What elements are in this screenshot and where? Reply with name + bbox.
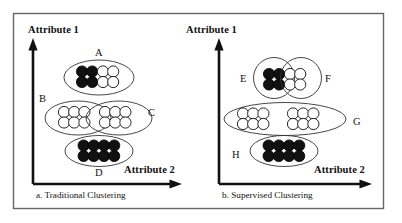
right-y-axis-arrowhead <box>214 38 223 51</box>
cluster-H-dark-dots <box>263 140 305 162</box>
cluster-E-label: E <box>240 73 246 84</box>
left-x-axis-label: Attribute 2 <box>124 164 175 175</box>
right-panel-caption: b. Supervised Clustering <box>222 190 313 200</box>
figure-container: Attribute 1 Attribute 2 A B C D a. Tradi… <box>0 0 402 223</box>
cluster-C-light-dots <box>99 106 131 128</box>
left-x-axis-arrowhead <box>170 179 183 188</box>
cluster-G-light-dots-right <box>287 108 319 130</box>
right-y-axis-label: Attribute 1 <box>186 24 237 35</box>
cluster-B-light-dots <box>58 106 90 128</box>
left-panel-caption: a. Traditional Clustering <box>36 190 126 200</box>
cluster-F-label: F <box>325 73 331 84</box>
cluster-G-light-dots-left <box>237 108 269 130</box>
cluster-A-light-dots <box>97 66 118 88</box>
cluster-C-label: C <box>148 107 155 118</box>
left-y-axis <box>28 38 37 184</box>
cluster-H-label: H <box>232 149 240 160</box>
cluster-D-dark-dots <box>78 140 120 162</box>
cluster-F-light-dots <box>284 68 305 90</box>
cluster-F <box>281 58 322 99</box>
left-y-axis-arrowhead <box>28 38 37 51</box>
left-y-axis-label: Attribute 1 <box>28 24 79 35</box>
cluster-H-outline <box>250 136 318 167</box>
right-x-axis <box>219 179 372 188</box>
cluster-A-label: A <box>95 47 103 58</box>
right-x-axis-arrowhead <box>360 179 373 188</box>
cluster-A <box>64 60 134 95</box>
right-x-axis-label: Attribute 2 <box>314 164 365 175</box>
cluster-G-label: G <box>353 116 361 127</box>
cluster-D <box>65 136 133 167</box>
cluster-A-dark-dots <box>76 66 97 88</box>
cluster-G <box>224 103 346 136</box>
clustering-comparison-diagram: Attribute 1 Attribute 2 A B C D a. Tradi… <box>0 0 402 223</box>
cluster-B-label: B <box>39 93 46 104</box>
cluster-C <box>86 101 152 135</box>
panel-supervised-clustering: Attribute 1 Attribute 2 E F G H b. Super… <box>186 24 372 200</box>
panel-traditional-clustering: Attribute 1 Attribute 2 A B C D a. Tradi… <box>28 24 182 200</box>
cluster-H <box>250 136 318 167</box>
left-x-axis <box>33 179 182 188</box>
cluster-D-label: D <box>95 167 103 178</box>
right-y-axis <box>214 38 223 184</box>
cluster-D-outline <box>65 136 133 167</box>
